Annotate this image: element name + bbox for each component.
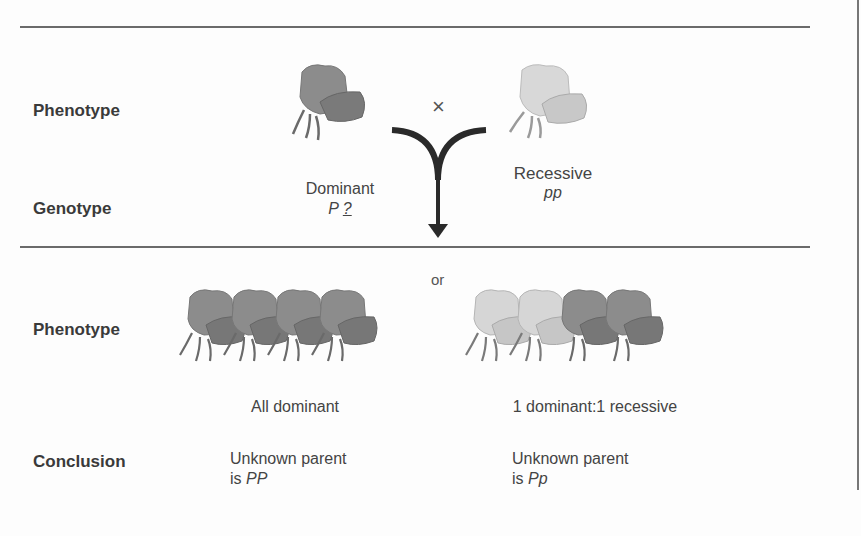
recessive-parent-phenotype: Recessive [493, 164, 613, 184]
dominant-parent-phenotype: Dominant [280, 180, 400, 198]
recessive-parent-genotype: pp [493, 184, 613, 202]
conclusion-right-genotype: Pp [528, 470, 548, 487]
genotype-known-allele: P [328, 200, 338, 217]
conclusion-left-line1: Unknown parent [230, 449, 347, 469]
outcome-right-phenotype: 1 dominant:1 recessive [480, 398, 710, 416]
conclusion-left-prefix: is [230, 470, 246, 487]
middle-divider [20, 246, 810, 248]
conclusion-left-line2: is PP [230, 469, 347, 489]
conclusion-right-line2: is Pp [512, 469, 629, 489]
offspring-mixed-flowers-icon [462, 283, 712, 373]
conclusion-label: Conclusion [33, 452, 126, 472]
or-label: or [431, 271, 444, 288]
cross-symbol: × [432, 94, 445, 120]
top-divider [20, 26, 810, 28]
outcome-left-conclusion: Unknown parent is PP [230, 449, 347, 489]
outcome-right-conclusion: Unknown parent is Pp [512, 449, 629, 489]
parent-phenotype-label: Phenotype [33, 101, 120, 121]
conclusion-right-line1: Unknown parent [512, 449, 629, 469]
genotype-unknown-allele: ? [343, 200, 352, 217]
dominant-parent-flower-icon [290, 62, 380, 142]
conclusion-right-prefix: is [512, 470, 528, 487]
dominant-parent-genotype: P ? [280, 200, 400, 218]
right-border [857, 0, 859, 490]
recessive-parent-flower-icon [504, 62, 599, 142]
outcome-left-phenotype: All dominant [210, 398, 380, 416]
conclusion-left-genotype: PP [246, 470, 267, 487]
offspring-all-dominant-flowers-icon [176, 283, 416, 373]
offspring-phenotype-label: Phenotype [33, 320, 120, 340]
parent-genotype-label: Genotype [33, 199, 111, 219]
cross-arrow-icon [390, 120, 490, 242]
